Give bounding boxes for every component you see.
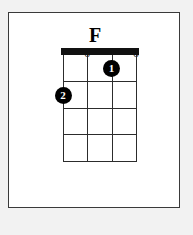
chord-name-label: F — [9, 25, 181, 45]
chord-diagram-page: F oo 12 — [0, 0, 193, 235]
nut-bar — [61, 48, 139, 55]
chord-diagram-card: F oo 12 — [8, 12, 180, 208]
finger-dot-1: 1 — [103, 60, 120, 77]
string-line-1 — [63, 55, 64, 162]
fret-line-4 — [63, 161, 137, 162]
fret-line-1 — [63, 81, 137, 82]
fret-line-2 — [63, 108, 137, 109]
string-line-4 — [136, 55, 137, 162]
fret-grid — [63, 55, 137, 162]
finger-dot-2: 2 — [55, 87, 72, 104]
string-line-2 — [87, 55, 88, 162]
fret-line-3 — [63, 134, 137, 135]
fretboard: 12 — [63, 48, 137, 162]
